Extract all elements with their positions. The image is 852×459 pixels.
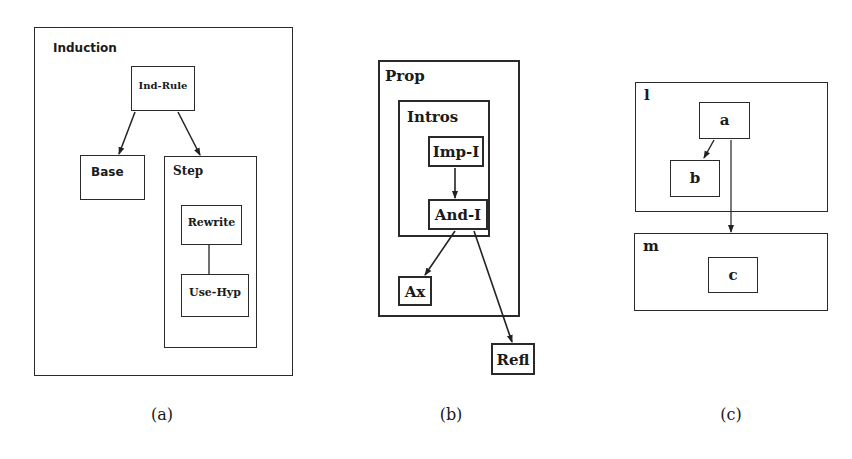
ind-rule-node: Ind-Rule	[131, 66, 195, 111]
base-node: Base	[80, 155, 145, 200]
step-label: Step	[173, 165, 203, 177]
refl-node: Refl	[491, 343, 535, 375]
use-hyp-node: Use-Hyp	[181, 274, 249, 317]
b-node: b	[670, 160, 720, 197]
caption-b: (b)	[440, 405, 463, 424]
imp-i-node: Imp-I	[428, 136, 484, 167]
refl-label: Refl	[493, 353, 533, 368]
caption-a: (a)	[151, 405, 173, 424]
a-node: a	[699, 102, 750, 139]
intros-label: Intros	[407, 110, 458, 125]
imp-i-label: Imp-I	[430, 145, 482, 160]
prop-label: Prop	[385, 69, 425, 84]
a-label: a	[700, 113, 749, 128]
c-node: c	[708, 257, 758, 293]
base-label: Base	[91, 166, 124, 178]
ind-rule-label: Ind-Rule	[132, 81, 194, 91]
rewrite-node: Rewrite	[181, 205, 242, 245]
step-container: Step	[164, 156, 257, 348]
and-i-node: And-I	[428, 199, 488, 230]
caption-c: (c)	[720, 405, 741, 424]
induction-label: Induction	[53, 42, 117, 54]
use-hyp-label: Use-Hyp	[182, 287, 248, 298]
ax-node: Ax	[398, 276, 432, 306]
and-i-label: And-I	[430, 208, 486, 223]
ax-label: Ax	[400, 285, 430, 300]
rewrite-label: Rewrite	[182, 217, 241, 228]
l-label: l	[644, 88, 650, 103]
m-label: m	[643, 239, 659, 254]
c-label: c	[709, 268, 757, 283]
b-label: b	[671, 171, 719, 186]
